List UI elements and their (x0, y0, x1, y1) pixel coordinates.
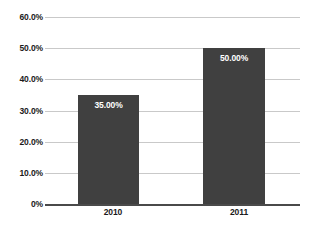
y-axis-tick-label: 30.0% (1, 106, 43, 115)
y-axis-tick-labels: 60.0% 50.0% 40.0% 30.0% 20.0% 10.0% 0% (0, 17, 43, 204)
x-axis-tick-label-2010: 2010 (48, 208, 178, 217)
bar-2011[interactable]: 50.00% (203, 48, 265, 204)
y-axis-tick-label: 60.0% (1, 13, 43, 22)
gridline (45, 17, 300, 18)
plot-area: 35.00% 50.00% (45, 17, 300, 204)
bar-2010[interactable]: 35.00% (78, 95, 139, 204)
y-axis-tick-label: 40.0% (1, 75, 43, 84)
bar-value-label: 35.00% (78, 101, 139, 110)
y-axis-tick-label: 20.0% (1, 137, 43, 146)
y-axis-tick-label: 0% (1, 200, 43, 209)
x-axis-baseline (45, 204, 300, 206)
y-axis-tick-label: 50.0% (1, 44, 43, 53)
x-axis-tick-label-2011: 2011 (174, 208, 304, 217)
bar-value-label: 50.00% (203, 54, 265, 63)
y-axis-tick-label: 10.0% (1, 169, 43, 178)
bar-chart: 60.0% 50.0% 40.0% 30.0% 20.0% 10.0% 0% 3… (0, 0, 313, 231)
